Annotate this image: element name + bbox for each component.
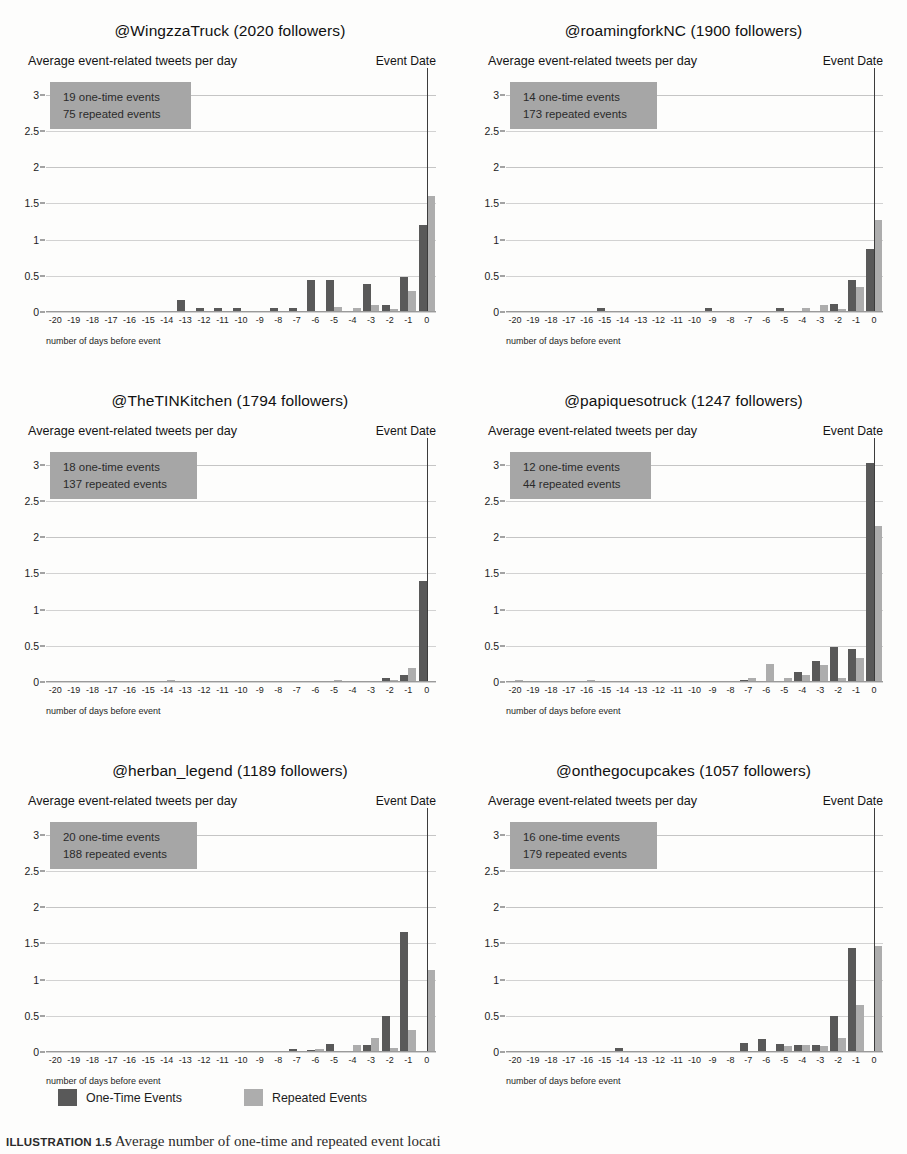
x-axis-tick-label: -1 xyxy=(847,1055,865,1065)
chart-subtitle: Average event-related tweets per day xyxy=(28,794,237,808)
plot-canvas: 00.511.522.5318 one-time events137 repea… xyxy=(46,450,436,682)
chart-panel: @herban_legend (1189 followers)Average e… xyxy=(0,740,460,1110)
bar-group-day--1 xyxy=(399,80,418,312)
event-date-label: Event Date xyxy=(823,424,883,438)
event-date-line xyxy=(427,438,428,682)
bar-repeated xyxy=(371,1038,379,1053)
y-axis-tick-label: 2 xyxy=(493,531,499,543)
bar-one-time xyxy=(812,661,820,682)
x-axis-tick-label: -9 xyxy=(250,315,269,325)
x-axis-tick-label: -19 xyxy=(65,315,84,325)
y-axis-tick-mark xyxy=(500,167,505,168)
x-axis-line xyxy=(46,1051,436,1052)
x-axis-tick-label: -3 xyxy=(362,1055,381,1065)
chart-title: @papiquesotruck (1247 followers) xyxy=(460,370,907,410)
x-axis-tick-label: -18 xyxy=(83,1055,102,1065)
plot-canvas: 00.511.522.5319 one-time events75 repeat… xyxy=(46,80,436,312)
x-axis-tick-label: -14 xyxy=(614,1055,632,1065)
chart-subtitle-row: Average event-related tweets per dayEven… xyxy=(28,424,442,446)
x-axis-tick-label: -20 xyxy=(46,1055,65,1065)
x-axis-tick-label: -10 xyxy=(686,1055,704,1065)
event-date-line xyxy=(874,438,875,682)
y-axis-tick-mark xyxy=(500,94,505,95)
x-axis-tick-label: -4 xyxy=(343,685,362,695)
x-axis-tick-label: -13 xyxy=(632,1055,650,1065)
x-axis-tick-label: -17 xyxy=(102,685,121,695)
bar-repeated xyxy=(874,220,882,312)
bar-group-day--3 xyxy=(362,450,381,682)
x-axis-tick-label: -17 xyxy=(560,685,578,695)
annotation-line: 12 one-time events xyxy=(523,459,621,476)
figure-caption-label: ILLUSTRATION 1.5 xyxy=(6,1136,112,1148)
y-axis-tick-label: 0 xyxy=(33,676,39,688)
x-axis-tick-label: -13 xyxy=(176,1055,195,1065)
legend-swatch-one-time-icon xyxy=(58,1089,77,1106)
x-axis-tick-label: -9 xyxy=(250,1055,269,1065)
legend-label-repeated: Repeated Events xyxy=(272,1091,367,1105)
bar-group-day--1 xyxy=(847,450,865,682)
bar-group-day--9 xyxy=(703,80,721,312)
chart-grid: @WingzzaTruck (2020 followers)Average ev… xyxy=(0,0,907,1110)
x-axis-tick-label: -11 xyxy=(668,1055,686,1065)
x-axis-label: number of days before event xyxy=(46,706,460,716)
event-count-annotation: 16 one-time events179 repeated events xyxy=(510,822,657,869)
bar-one-time xyxy=(400,932,408,1052)
y-axis-tick-mark xyxy=(40,870,45,871)
y-axis-tick-label: 2.5 xyxy=(484,495,499,507)
x-axis-tick-label: -6 xyxy=(306,1055,325,1065)
x-axis-tick-label: -20 xyxy=(506,1055,524,1065)
figure-caption-text: Average number of one-time and repeated … xyxy=(115,1133,441,1149)
x-axis-tick-label: -8 xyxy=(721,315,739,325)
bar-group-day--2 xyxy=(829,820,847,1052)
y-axis-tick-mark xyxy=(500,979,505,980)
y-axis-tick-mark xyxy=(40,573,45,574)
x-axis-tick-label: 0 xyxy=(418,685,437,695)
plot-canvas: 00.511.522.5320 one-time events188 repea… xyxy=(46,820,436,1052)
bar-group-day--11 xyxy=(213,80,232,312)
y-axis-tick-mark xyxy=(40,500,45,501)
y-axis-tick-label: 2 xyxy=(33,161,39,173)
bar-one-time xyxy=(830,647,838,682)
x-axis-tick-label: -4 xyxy=(793,315,811,325)
x-axis-tick-label: -14 xyxy=(614,315,632,325)
y-axis-tick-label: 0.5 xyxy=(24,270,39,282)
bar-group-day--7 xyxy=(288,80,307,312)
bar-group-day--6 xyxy=(306,80,325,312)
y-axis-tick-mark xyxy=(500,870,505,871)
bar-group-day--9 xyxy=(703,820,721,1052)
x-axis-tick-label: -7 xyxy=(739,685,757,695)
bar-group-day--1 xyxy=(399,450,418,682)
chart-subtitle: Average event-related tweets per day xyxy=(488,794,697,808)
bar-group-day--4 xyxy=(343,80,362,312)
x-axis-tick-label: -18 xyxy=(542,315,560,325)
plot-area: 00.511.522.5316 one-time events179 repea… xyxy=(460,820,907,1086)
y-axis-tick-mark xyxy=(500,943,505,944)
bar-group-day--5 xyxy=(325,820,344,1052)
bar-repeated xyxy=(874,946,882,1052)
event-count-annotation: 12 one-time events44 repeated events xyxy=(510,452,651,499)
x-axis-tick-label: -4 xyxy=(793,685,811,695)
bar-repeated xyxy=(408,668,416,683)
x-axis-tick-label: -13 xyxy=(176,685,195,695)
y-axis-tick-label: 1 xyxy=(493,974,499,986)
plot-area: 00.511.522.5319 one-time events75 repeat… xyxy=(0,80,460,346)
bar-group-day--9 xyxy=(250,450,269,682)
y-axis-tick-label: 1.5 xyxy=(24,567,39,579)
bar-one-time xyxy=(307,280,315,312)
y-axis-tick-label: 1.5 xyxy=(484,937,499,949)
x-axis-tick-label: -12 xyxy=(195,315,214,325)
y-axis-tick-label: 2.5 xyxy=(24,495,39,507)
x-axis-tick-label: -9 xyxy=(250,685,269,695)
x-axis-tick-label: -4 xyxy=(343,1055,362,1065)
bar-group-day--12 xyxy=(195,820,214,1052)
bar-repeated xyxy=(856,287,864,312)
y-axis-tick-label: 3 xyxy=(493,829,499,841)
x-axis-tick-label: -3 xyxy=(811,685,829,695)
x-axis-tick-label: -18 xyxy=(83,315,102,325)
x-axis-tick-label: -19 xyxy=(65,1055,84,1065)
x-axis-tick-label: -18 xyxy=(83,685,102,695)
x-axis-tick-label: -10 xyxy=(232,685,251,695)
x-axis-line xyxy=(46,681,436,682)
bar-group-day--7 xyxy=(288,820,307,1052)
y-axis-tick-label: 3 xyxy=(33,89,39,101)
